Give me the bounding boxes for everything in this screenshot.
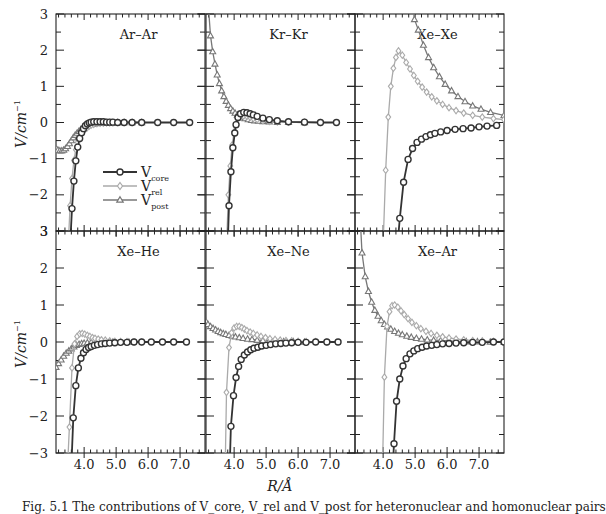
x-axes-group: 4.05.06.07.04.05.06.07.04.05.06.07.0 <box>74 457 490 472</box>
series-line-v-rel <box>225 327 327 468</box>
panels-group: Ar–ArKr–KrXe–XeXe–HeXe–NeXe–Ar <box>53 0 507 468</box>
y-tick-label: −1 <box>29 372 48 387</box>
x-tick-label: 4.0 <box>224 457 245 472</box>
triangle-marker-icon <box>117 197 123 202</box>
series-line-v-core <box>393 342 504 468</box>
y-axis-title-bottom: V/cm−1 <box>13 320 29 368</box>
y-tick-label: −3 <box>29 446 48 461</box>
diamond-marker-icon <box>118 183 123 190</box>
y-axis-title-top: V/cm−1 <box>13 100 29 148</box>
x-tick-label: 5.0 <box>106 457 127 472</box>
figure-caption: Fig. 5.1 The contributions of V_core, V_… <box>22 500 606 514</box>
panel-xe-ar: Xe–Ar <box>347 216 507 468</box>
x-tick-label: 5.0 <box>256 457 277 472</box>
x-tick-label: 7.0 <box>170 457 191 472</box>
panel-ar-ar: Ar–Ar <box>53 14 205 246</box>
x-tick-label: 7.0 <box>469 457 490 472</box>
series-line-v-core <box>71 342 186 468</box>
panel-xe-xe: Xe–Xe <box>347 0 507 246</box>
y-axes-group: 3210−1−233210−1−2−3 <box>29 7 48 461</box>
panel-title: Ar–Ar <box>119 27 158 42</box>
svg-text:V/cm−1: V/cm−1 <box>13 320 29 368</box>
x-tick-label: 5.0 <box>405 457 426 472</box>
y-tick-label: −2 <box>29 409 48 424</box>
y-tick-label: 3 <box>40 224 48 239</box>
x-tick-label: 7.0 <box>320 457 341 472</box>
series-line-v-core <box>230 342 338 468</box>
y-tick-label: 2 <box>40 43 48 58</box>
panel-frame <box>355 14 504 231</box>
panel-title: Xe–He <box>117 244 160 259</box>
series-line-v-core <box>70 122 190 246</box>
panel-title: Xe–Ne <box>267 244 310 259</box>
x-tick-label: 6.0 <box>437 457 458 472</box>
y-tick-label: 0 <box>40 115 48 130</box>
y-tick-label: 1 <box>40 79 48 94</box>
y-tick-label: 2 <box>40 261 48 276</box>
legend: Vcore Vrel Vpost <box>103 164 169 211</box>
y-tick-label: −2 <box>29 187 48 202</box>
series-line-v-rel <box>227 116 321 246</box>
y-tick-label: 3 <box>40 7 48 22</box>
x-tick-label: 6.0 <box>288 457 309 472</box>
panel-xe-he: Xe–He <box>53 231 205 468</box>
x-tick-label: 6.0 <box>138 457 159 472</box>
series-line-v-post <box>208 0 305 123</box>
series-line-v-core <box>228 112 337 245</box>
svg-text:V/cm−1: V/cm−1 <box>13 100 29 148</box>
x-tick-label: 4.0 <box>373 457 394 472</box>
panel-kr-kr: Kr–Kr <box>198 0 355 246</box>
panel-xe-ne: Xe–Ne <box>198 231 355 468</box>
series-line-v-rel <box>383 305 505 468</box>
series-line-v-rel <box>68 334 142 468</box>
legend-entry-core: Vcore <box>103 164 169 183</box>
y-tick-label: 0 <box>40 335 48 350</box>
y-tick-label: −1 <box>29 151 48 166</box>
panel-title: Xe–Xe <box>417 27 458 42</box>
x-tick-label: 4.0 <box>74 457 95 472</box>
x-axis-title: R/Å <box>266 477 292 494</box>
panel-title: Kr–Kr <box>269 27 308 42</box>
panel-title: Xe–Ar <box>418 244 458 259</box>
y-tick-label: 1 <box>40 298 48 313</box>
circle-marker-icon <box>117 169 123 175</box>
